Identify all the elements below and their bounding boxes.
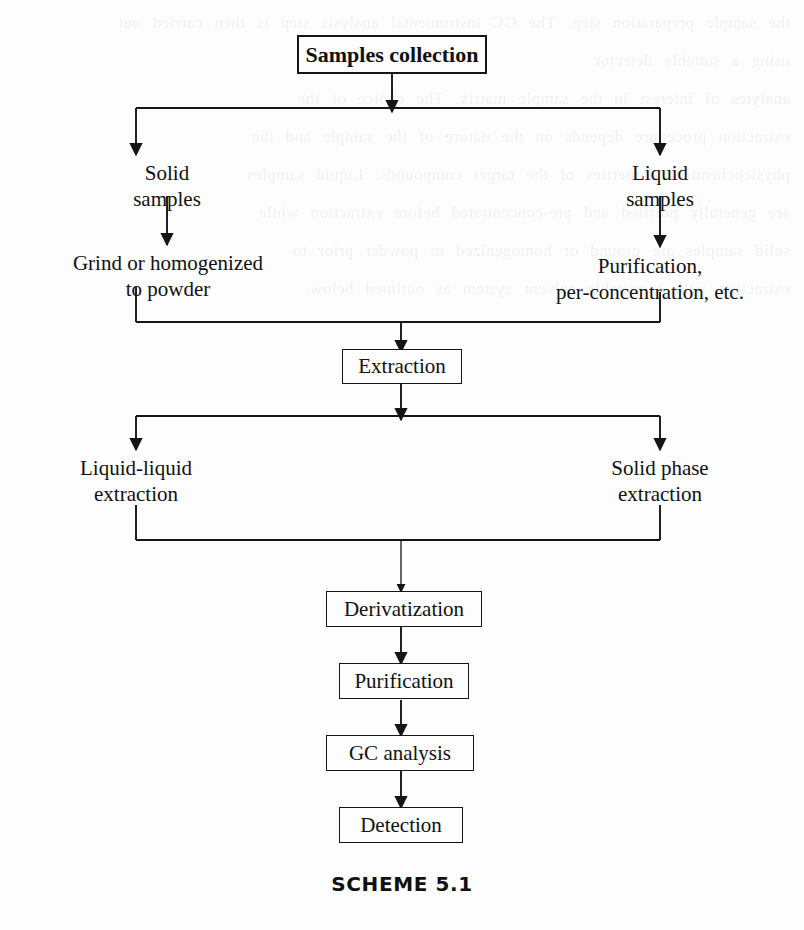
node-solid-phase-extraction: Solid phase extraction [570,455,750,507]
node-liquid-samples: Liquid samples [580,160,740,212]
node-derivatization: Derivatization [326,591,482,627]
node-liquid-liquid-extraction: Liquid-liquid extraction [46,455,226,507]
node-purification-preconcentration: Purification, per-concentration, etc. [496,253,804,305]
node-purification: Purification [339,663,469,699]
figure-caption: SCHEME 5.1 [0,872,804,896]
node-gc-analysis: GC analysis [326,735,474,771]
node-grind-or-homogenized: Grind or homogenized to powder [13,250,323,302]
node-solid-samples: Solid samples [87,160,247,212]
node-extraction: Extraction [342,349,462,384]
scheme-figure-page: the sample preparation step. The GC inst… [0,0,804,930]
node-detection: Detection [339,807,463,843]
node-samples-collection: Samples collection [297,35,487,74]
